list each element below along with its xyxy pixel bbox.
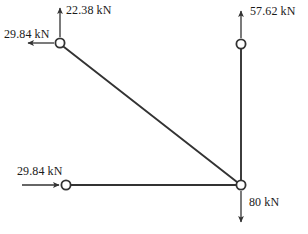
force-arrows (22, 8, 241, 222)
joint-top-left (55, 38, 64, 47)
force-label-top-vertical: 22.38 kN (66, 4, 111, 16)
force-label-bottom-right: 80 kN (249, 196, 279, 208)
force-label-top-left: 29.84 kN (4, 28, 49, 40)
joint-bottom-right (236, 180, 245, 189)
joint-bottom-left (61, 180, 70, 189)
joint-top-right (236, 39, 245, 48)
truss-diagram: 22.38 kN 29.84 kN 57.62 kN 29.84 kN 80 k… (0, 0, 308, 234)
member-diagonal (64, 47, 237, 182)
force-label-bottom-left: 29.84 kN (17, 165, 62, 177)
force-label-top-right: 57.62 kN (250, 5, 295, 17)
truss-members (64, 47, 241, 185)
